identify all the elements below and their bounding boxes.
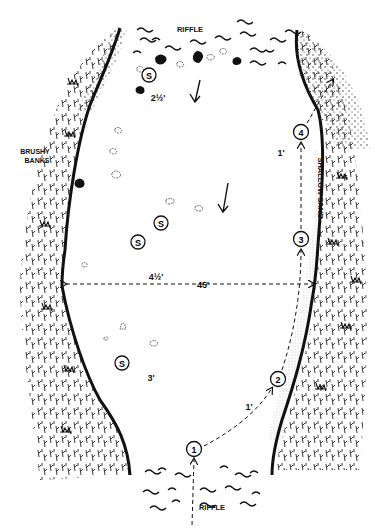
svg-text:S: S (146, 71, 152, 81)
svg-text:4: 4 (298, 128, 303, 138)
stone-marker: S (154, 216, 168, 230)
flow-arrow-icon (190, 80, 200, 102)
stone-markers: S S S S (115, 68, 168, 370)
svg-text:S: S (158, 219, 164, 229)
svg-text:S: S (135, 238, 141, 248)
depth-label-right-upper: 1' (277, 148, 284, 158)
depth-label-right-lower: 1' (245, 402, 252, 412)
flow-arrows (190, 80, 228, 212)
riffle-top-label: RIFFLE (177, 25, 203, 34)
brushy-banks-label-line1: BRUSHY (20, 148, 50, 155)
width-label: 45' (197, 280, 209, 290)
svg-text:3: 3 (298, 235, 303, 245)
depth-label-center: 4½' (149, 272, 164, 282)
left-bank (20, 28, 130, 480)
svg-text:1: 1 (191, 445, 196, 455)
depth-label-lower: 3' (147, 373, 154, 383)
stream-diagram: S S S S 1 2 3 4 (0, 0, 380, 530)
position-marker-3: 3 (294, 232, 309, 247)
flow-arrow-icon (218, 183, 228, 212)
shallow-sand-label: SHALLOW SAND (316, 157, 325, 219)
position-marker-4: 4 (294, 125, 309, 140)
riffle-bottom-label: RIFFLE (199, 503, 225, 512)
stone-marker: S (131, 235, 145, 249)
stone-marker: S (115, 356, 129, 370)
brushy-banks-label-line2: BANKS (25, 157, 50, 164)
position-marker-2: 2 (271, 372, 286, 387)
svg-text:S: S (119, 359, 125, 369)
stone-marker: S (142, 68, 156, 82)
position-marker-1: 1 (187, 442, 202, 457)
right-bank (268, 30, 370, 475)
depth-label-top: 2½' (151, 93, 166, 103)
svg-text:2: 2 (275, 375, 280, 385)
